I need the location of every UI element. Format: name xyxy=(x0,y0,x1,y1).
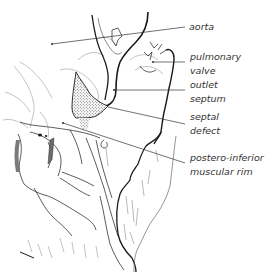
septal-defect-region xyxy=(72,72,108,118)
pulmonary-trunk-wall xyxy=(154,49,174,144)
label-postero-inferior-line1: postero-inferior xyxy=(190,151,264,165)
label-postero-inferior-muscular-rim: postero-inferior muscular rim xyxy=(190,151,264,179)
aorta-walls xyxy=(92,12,148,106)
lower-left-mark xyxy=(20,252,34,258)
label-pulmonary-valve: pulmonary valve xyxy=(190,50,241,78)
label-septal-defect-line2: defect xyxy=(190,124,220,138)
label-aorta: aorta xyxy=(189,20,214,34)
label-septal-defect: septal defect xyxy=(190,110,220,138)
label-outlet-septum-line2: septum xyxy=(190,92,226,106)
label-aorta-text: aorta xyxy=(189,20,214,34)
leader-lines xyxy=(52,27,185,163)
trabeculations xyxy=(106,148,158,244)
label-postero-inferior-line2: muscular rim xyxy=(190,165,264,179)
septal-defect-pointer xyxy=(108,107,185,124)
shaded-tissue-2 xyxy=(48,138,54,164)
postero-inferior-pointer xyxy=(63,123,185,163)
label-pulmonary-valve-line2: valve xyxy=(190,64,241,78)
aortic-cusp xyxy=(112,28,122,46)
label-outlet-septum: outlet septum xyxy=(190,78,226,106)
small-hook xyxy=(101,140,107,148)
lower-strokes xyxy=(28,238,98,258)
diagram-canvas: aorta pulmonary valve outlet septum sept… xyxy=(0,0,271,277)
label-septal-defect-line1: septal xyxy=(190,110,220,124)
shaded-tissue xyxy=(15,140,21,172)
label-outlet-septum-line1: outlet xyxy=(190,78,226,92)
muscular-structures xyxy=(18,122,124,270)
heart-drawing xyxy=(0,0,271,277)
label-pulmonary-valve-line1: pulmonary xyxy=(190,50,241,64)
